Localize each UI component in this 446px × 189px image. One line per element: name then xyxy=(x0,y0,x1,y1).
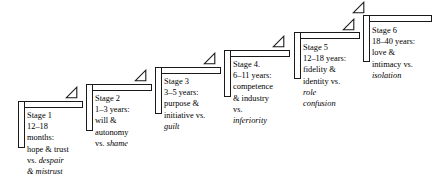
stage-2-line-4: autonomy xyxy=(95,127,130,138)
stage-5-line-3: fidelity & xyxy=(303,64,346,75)
step-riser-bar xyxy=(363,15,370,62)
step-up-triangle-arrow-icon xyxy=(352,1,365,14)
step-tread-bar xyxy=(86,84,152,91)
stage-1-line-2: 12–18 xyxy=(27,121,69,132)
step-up-triangle-arrow-icon xyxy=(65,86,78,99)
stage-2-line-3: will & xyxy=(95,115,130,126)
stage-3-label: Stage 33–5 years:purpose &initiative vs.… xyxy=(164,76,205,132)
step-up-triangle-arrow-icon xyxy=(272,35,285,48)
stage-2-label: Stage 21–3 years:will &autonomyvs. shame xyxy=(95,93,130,149)
stage-3-line-4: initiative vs. xyxy=(164,110,205,121)
stage-6-line-5: isolation xyxy=(372,70,415,81)
stage-5-line-4: identity vs. xyxy=(303,76,346,87)
stage-1-line-4: hope & trust xyxy=(27,144,69,155)
step-tread-bar xyxy=(18,101,83,108)
stage-1-line-5: vs. despair xyxy=(27,155,69,166)
step-tread-bar xyxy=(224,50,290,57)
step-tread-bar xyxy=(155,67,221,74)
step-riser-bar xyxy=(86,84,93,131)
stage-2-line-1: Stage 2 xyxy=(95,93,130,104)
stage-4-line-4: & industry xyxy=(233,93,273,104)
stage-4-line-2: 6–11 years: xyxy=(233,70,273,81)
stage-6-line-1: Stage 6 xyxy=(372,25,415,36)
stage-4-line-3: competence xyxy=(233,81,273,92)
stage-5-line-2: 12–18 years: xyxy=(303,53,346,64)
stage-1-line-6: & mistrust xyxy=(27,166,69,177)
stage-1-line-1: Stage 1 xyxy=(27,110,69,121)
stage-6-line-2: 18–40 years: xyxy=(372,36,415,47)
stage-5-line-1: Stage 5 xyxy=(303,42,346,53)
step-tread-bar xyxy=(294,32,360,39)
stage-2-line-5: vs. shame xyxy=(95,138,130,149)
stage-3-line-5: guilt xyxy=(164,121,205,132)
stage-2-line-2: 1–3 years: xyxy=(95,104,130,115)
step-riser-bar xyxy=(224,50,231,97)
stage-5-line-5: role xyxy=(303,87,346,98)
step-riser-bar xyxy=(18,101,25,148)
stage-3-line-1: Stage 3 xyxy=(164,76,205,87)
step-tread-bar xyxy=(363,15,432,22)
stage-1-label: Stage 112–18months:hope & trustvs. despa… xyxy=(27,110,69,177)
stage-4-line-5: vs. xyxy=(233,104,273,115)
stage-3-line-2: 3–5 years: xyxy=(164,87,205,98)
step-riser-bar xyxy=(155,67,162,114)
stage-5-label: Stage 512–18 years:fidelity &identity vs… xyxy=(303,42,346,109)
stage-6-label: Stage 618–40 years:love &intimacy vs.iso… xyxy=(372,25,415,81)
stage-3-line-3: purpose & xyxy=(164,98,205,109)
stage-1-line-3: months: xyxy=(27,132,69,143)
stage-6-line-4: intimacy vs. xyxy=(372,59,415,70)
stage-2-line-5-emphasis: shame xyxy=(107,139,128,148)
stage-4-line-1: Stage 4. xyxy=(233,59,273,70)
stage-6-line-3: love & xyxy=(372,47,415,58)
erikson-stages-diagram: Stage 112–18months:hope & trustvs. despa… xyxy=(0,0,446,189)
step-up-triangle-arrow-icon xyxy=(134,69,147,82)
stage-4-line-6: inferiority xyxy=(233,115,273,126)
step-up-triangle-arrow-icon xyxy=(342,18,355,31)
stage-4-label: Stage 4.6–11 years:competence& industryv… xyxy=(233,59,273,126)
step-riser-bar xyxy=(294,32,301,79)
step-up-triangle-arrow-icon xyxy=(203,52,216,65)
stage-5-line-6: confusion xyxy=(303,98,346,109)
stage-1-line-5-emphasis: despair xyxy=(39,156,64,165)
